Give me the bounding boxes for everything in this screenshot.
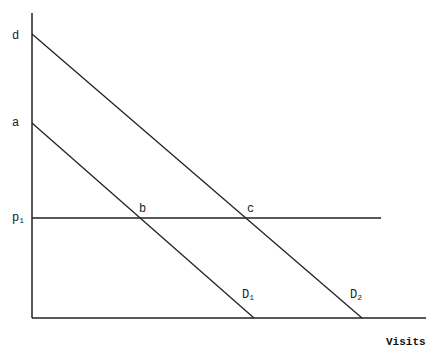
y-label-d: d [12, 30, 19, 42]
d2-sub: 2 [357, 293, 362, 302]
curve-label-d1: D1 [242, 289, 254, 302]
chart-canvas [0, 0, 437, 347]
d1-sub: 1 [249, 293, 254, 302]
y-label-a: a [12, 117, 19, 129]
x-axis-label: Visits [386, 336, 426, 347]
p1-sub: 1 [19, 216, 24, 225]
curve-label-d2: D2 [350, 289, 362, 302]
demand-curve-d2 [32, 34, 362, 318]
demand-curve-d1 [32, 123, 254, 318]
y-label-p1: p1 [12, 212, 24, 225]
point-label-c: c [247, 203, 254, 215]
point-label-b: b [139, 203, 146, 215]
